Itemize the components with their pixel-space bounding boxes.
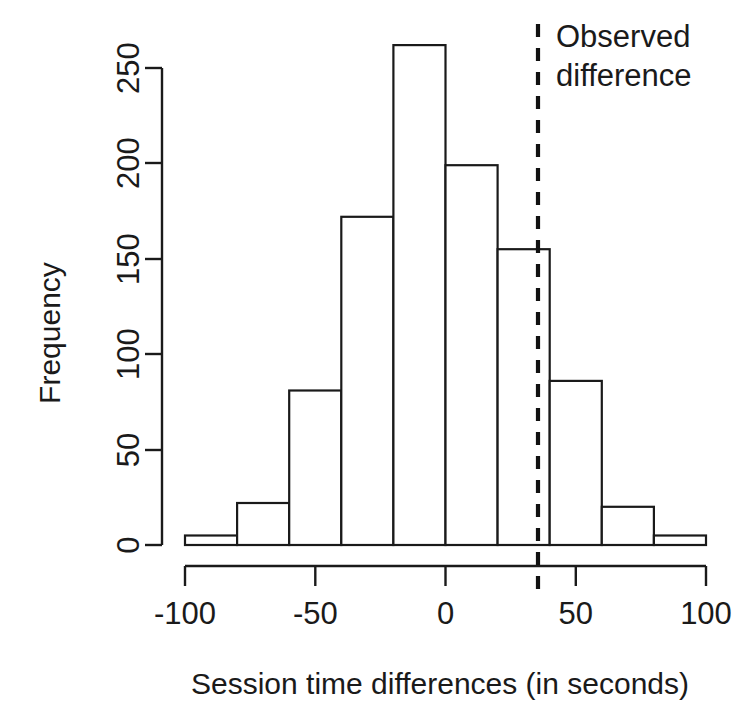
y-tick-label-200: 200 — [111, 137, 146, 189]
histogram-bar — [498, 249, 550, 545]
y-tick-label-150: 150 — [111, 233, 146, 285]
histogram-bar — [393, 45, 445, 545]
histogram-bars — [185, 45, 706, 545]
observed-difference-label-line1: Observed — [556, 19, 690, 54]
y-tick-label-50: 50 — [111, 433, 146, 467]
histogram-bar — [289, 391, 341, 546]
histogram-figure: 250 200 150 100 50 0 Frequency — [0, 0, 754, 713]
histogram-bar — [237, 503, 289, 545]
x-tick-label-minus100: -100 — [154, 596, 216, 631]
y-tick-label-0: 0 — [111, 536, 146, 553]
histogram-bar — [446, 165, 498, 545]
histogram-bar — [550, 381, 602, 545]
y-tick-label-100: 100 — [111, 328, 146, 380]
x-tick-label-0: 0 — [437, 596, 454, 631]
x-tick-label-50: 50 — [559, 596, 593, 631]
histogram-bar — [602, 507, 654, 545]
x-tick-label-100: 100 — [680, 596, 732, 631]
x-axis: -100 -50 0 50 100 Session time differenc… — [154, 566, 732, 700]
histogram-svg: 250 200 150 100 50 0 Frequency — [0, 0, 754, 713]
x-axis-title: Session time differences (in seconds) — [191, 667, 689, 700]
y-tick-label-250: 250 — [111, 42, 146, 94]
histogram-bar — [185, 536, 237, 546]
x-tick-label-minus50: -50 — [293, 596, 338, 631]
histogram-bar — [341, 217, 393, 545]
observed-difference-label-line2: difference — [556, 58, 692, 93]
y-axis: 250 200 150 100 50 0 Frequency — [33, 42, 162, 553]
y-axis-title: Frequency — [33, 262, 66, 404]
histogram-bar — [654, 536, 706, 546]
